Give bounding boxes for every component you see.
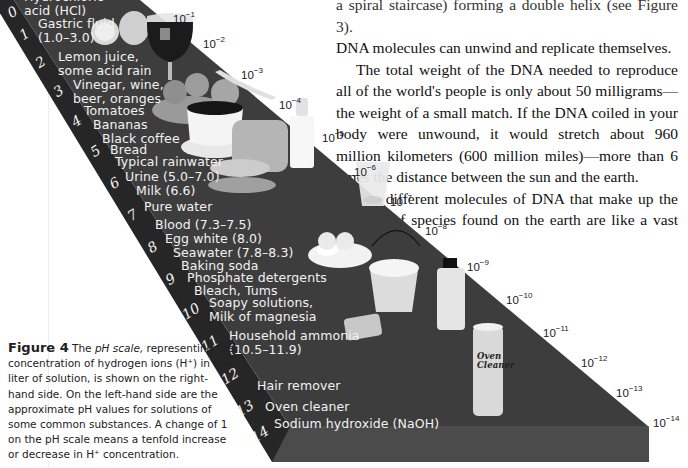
figure-caption-label: Figure 4 (8, 340, 69, 355)
substance-label: Hair remover (257, 379, 340, 393)
figure-caption: Figure 4 The pH scale, representing the … (8, 340, 234, 463)
concentration-label: 10−13 (616, 384, 642, 399)
substance-label: Soapy solutions, Milk of magnesia (209, 296, 317, 324)
caption-text-pre: The (69, 342, 95, 354)
concentration-label: 10−9 (467, 258, 489, 273)
bleach-bottle-image (437, 258, 465, 330)
concentration-label: 10−1 (173, 10, 195, 25)
concentration-label: 10−5 (322, 129, 344, 144)
substance-label: Urine (5.0–7.0) (125, 170, 220, 184)
concentration-label: 10−7 (390, 193, 412, 208)
substance-label: Oven cleaner (265, 400, 349, 414)
substance-label: Egg white (8.0) (165, 232, 262, 246)
concentration-label: 10−2 (203, 35, 225, 50)
concentration-label: 10−11 (543, 324, 569, 339)
substance-label: Blood (7.3–7.5) (155, 218, 252, 232)
concentration-label: 10−12 (581, 354, 607, 369)
textbook-page: a spiral staircase) forming a double hel… (0, 0, 688, 468)
concentration-label: 10−4 (279, 96, 301, 111)
substance-label: Sodium hydroxide (NaOH) (274, 417, 439, 431)
slab-front-face (272, 427, 649, 462)
oven-cleaner-product-label: Oven Cleaner (477, 352, 515, 370)
substance-label: Lemon juice, some acid rain (58, 50, 152, 78)
substance-label: Tomatoes (84, 104, 145, 118)
concentration-label: 10−14 (653, 414, 679, 429)
substance-label: Vinegar, wine, beer, oranges (73, 78, 164, 106)
substance-label: Household ammonia (10.5–11.9) (229, 329, 360, 357)
substance-label: Pure water (144, 200, 212, 214)
concentration-label: 10−10 (506, 291, 532, 306)
concentration-label: 10−3 (241, 66, 263, 81)
substance-label: Milk (6.6) (136, 184, 196, 198)
caption-text: representing the concentration of hydrog… (8, 342, 234, 460)
substance-label: Gastric fluid (1.0–3.0) (38, 17, 115, 45)
caption-term: pH scale, (95, 342, 143, 354)
substance-label: Bananas (93, 118, 148, 132)
concentration-label: 10−8 (425, 222, 447, 237)
concentration-label: 10−6 (354, 163, 376, 178)
substance-label: Typical rainwater (115, 155, 223, 169)
